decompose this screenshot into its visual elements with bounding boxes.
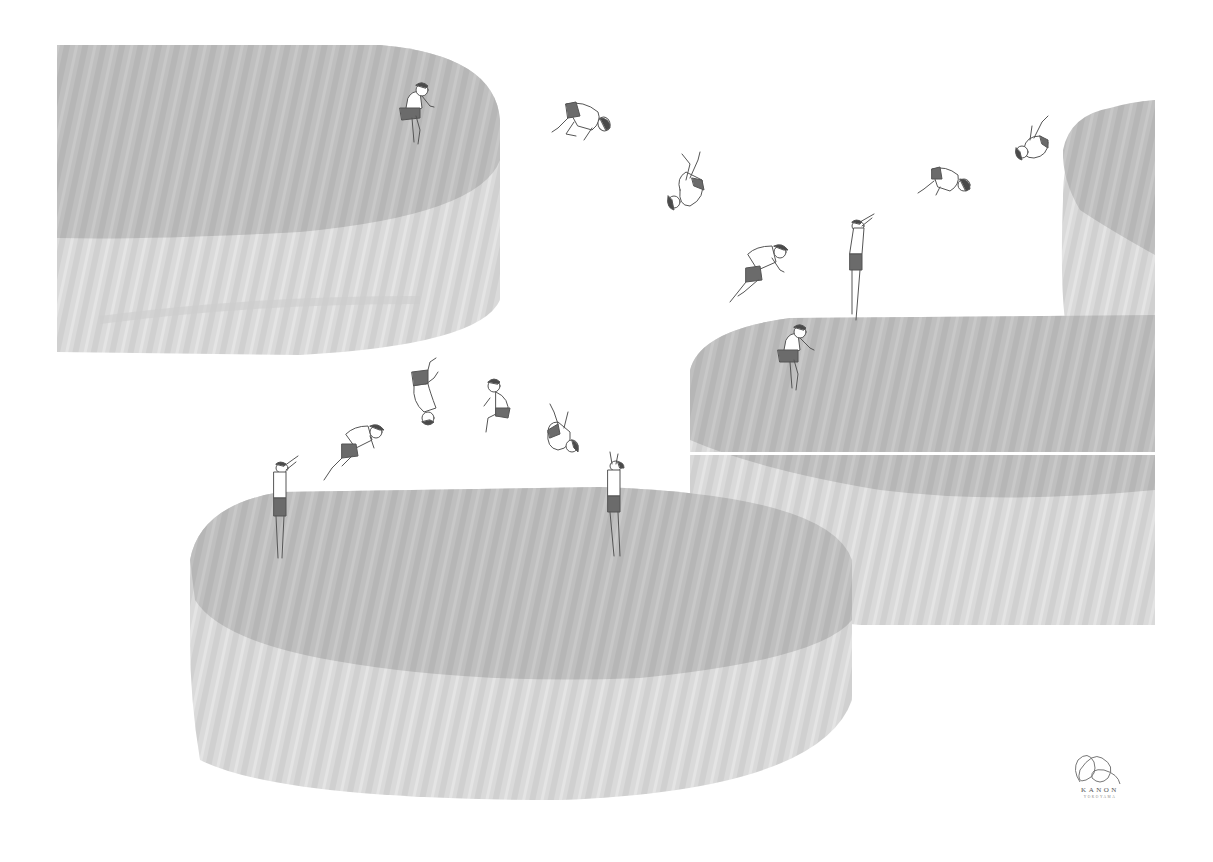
figure-leap-1 <box>730 245 788 302</box>
figure-tuck-1 <box>552 102 612 140</box>
illustration: KANON YOKOYAMA <box>0 0 1213 862</box>
signature-name: KANON <box>1068 786 1132 794</box>
signature-subtitle: YOKOYAMA <box>1068 795 1132 799</box>
scene-canvas <box>0 0 1213 862</box>
horizon-line <box>690 452 1155 455</box>
figure-flip-1 <box>668 152 704 210</box>
signature: KANON YOKOYAMA <box>1068 748 1132 818</box>
figure-standing-dive-1 <box>850 214 874 320</box>
figure-flip-3 <box>412 358 438 425</box>
top-right-platform <box>1062 100 1155 320</box>
figure-leap-2 <box>324 425 384 480</box>
figure-tuck-2 <box>918 167 970 195</box>
figure-flip-4 <box>548 404 579 452</box>
figure-flip-2 <box>1016 116 1048 160</box>
figure-tuck-3 <box>484 379 510 432</box>
bottom-platform <box>190 487 852 800</box>
top-left-platform <box>57 45 500 355</box>
